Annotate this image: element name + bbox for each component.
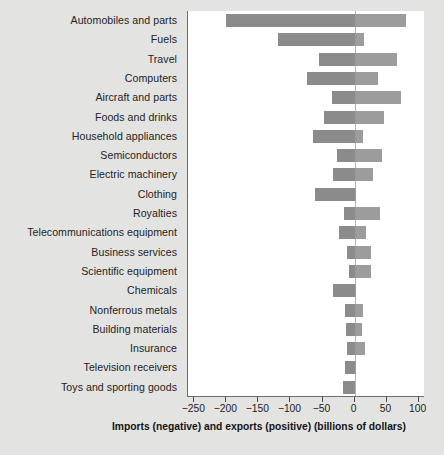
bar-row [188, 108, 424, 127]
bar-row [188, 243, 424, 262]
category-label: Household appliances [72, 127, 177, 146]
bar-row [188, 204, 424, 223]
import-bar [333, 168, 354, 181]
import-bar [307, 72, 355, 85]
category-label: Toys and sporting goods [61, 378, 177, 397]
bar-row [188, 88, 424, 107]
category-label: Telecommunications equipment [27, 223, 177, 242]
import-bar [344, 207, 355, 220]
import-bar [226, 14, 354, 27]
bar-row [188, 262, 424, 281]
category-label: Clothing [138, 185, 177, 204]
category-label: Travel [148, 50, 177, 69]
import-bar [337, 149, 355, 162]
bar-row [188, 30, 424, 49]
export-bar [355, 207, 380, 220]
tick-mark [289, 397, 290, 402]
tick-mark [386, 397, 387, 402]
tick-label: 0 [351, 403, 357, 414]
category-label: Automobiles and parts [71, 11, 177, 30]
export-bar [355, 111, 384, 124]
export-bar [355, 188, 356, 201]
export-bar [355, 246, 371, 259]
category-label: Foods and drinks [95, 108, 177, 127]
import-bar [313, 130, 355, 143]
category-label-column: Automobiles and partsFuelsTravelComputer… [0, 11, 183, 397]
tick-label: −250 [182, 403, 205, 414]
export-bar [355, 149, 383, 162]
export-bar [355, 33, 365, 46]
category-label: Chemicals [127, 281, 177, 300]
export-bar [355, 130, 364, 143]
import-bar [324, 111, 354, 124]
category-label: Fuels [151, 30, 177, 49]
export-bar [355, 284, 356, 297]
export-bar [355, 168, 374, 181]
export-bar [355, 265, 372, 278]
x-axis-tick-labels: −250−200−150−100−50050100 [187, 403, 424, 417]
export-bar [355, 53, 398, 66]
category-label: Semiconductors [100, 146, 177, 165]
tick-mark [418, 397, 419, 402]
category-label: Building materials [92, 320, 177, 339]
import-bar [333, 284, 354, 297]
bar-row [188, 185, 424, 204]
tick-label: 100 [409, 403, 426, 414]
x-axis-title-text: Imports (negative) and exports (positive… [38, 421, 406, 432]
bar-row [188, 320, 424, 339]
x-axis-title: Imports (negative) and exports (positive… [0, 421, 444, 432]
bar-row [188, 301, 424, 320]
export-bar [355, 361, 357, 374]
import-bar [346, 323, 355, 336]
export-bar [355, 323, 362, 336]
x-axis-tick-marks [187, 397, 424, 402]
export-bar [355, 226, 367, 239]
category-label: Scientific equipment [81, 262, 177, 281]
tick-label: −200 [214, 403, 237, 414]
import-bar [315, 188, 354, 201]
import-bar [347, 342, 354, 355]
category-label: Nonferrous metals [90, 301, 177, 320]
import-bar [339, 226, 355, 239]
import-bar [343, 381, 355, 394]
bar-row [188, 378, 424, 397]
bar-row [188, 339, 424, 358]
bar-row [188, 146, 424, 165]
bar-row [188, 127, 424, 146]
import-bar [278, 33, 355, 46]
tick-mark [322, 397, 323, 402]
category-label: Business services [91, 243, 177, 262]
category-label: Computers [125, 69, 177, 88]
bar-row [188, 165, 424, 184]
horizontal-bar-chart: Automobiles and partsFuelsTravelComputer… [0, 0, 444, 455]
bar-row [188, 281, 424, 300]
bar-row [188, 50, 424, 69]
import-bar [319, 53, 354, 66]
bar-row [188, 69, 424, 88]
export-bar [355, 72, 378, 85]
category-label: Electric machinery [90, 165, 177, 184]
tick-mark [354, 397, 355, 402]
plot-area [187, 11, 424, 397]
tick-label: −50 [313, 403, 330, 414]
export-bar [355, 304, 363, 317]
tick-label: −150 [246, 403, 269, 414]
category-label: Insurance [130, 339, 177, 358]
import-bar [332, 91, 354, 104]
tick-mark [225, 397, 226, 402]
tick-mark [257, 397, 258, 402]
tick-label: 50 [380, 403, 391, 414]
category-label: Television receivers [84, 358, 177, 377]
bar-row [188, 223, 424, 242]
import-bar [345, 304, 355, 317]
bar-row [188, 358, 424, 377]
import-bar [345, 361, 355, 374]
category-label: Royalties [133, 204, 177, 223]
category-label: Aircraft and parts [95, 88, 177, 107]
tick-label: −100 [278, 403, 301, 414]
tick-mark [193, 397, 194, 402]
export-bar [355, 14, 406, 27]
export-bar [355, 342, 366, 355]
bar-row [188, 11, 424, 30]
export-bar [355, 91, 402, 104]
